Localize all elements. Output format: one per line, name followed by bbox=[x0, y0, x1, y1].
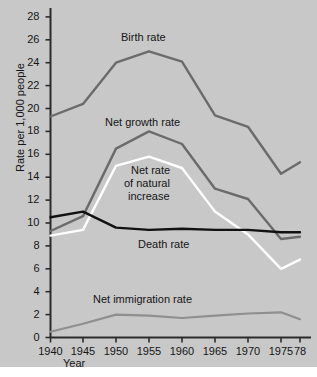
figure-bottom-margin bbox=[0, 367, 317, 377]
y-axis-tick-label: 14 bbox=[18, 170, 40, 182]
series-label-death-rate: Death rate bbox=[138, 238, 189, 251]
y-axis-tick-label: 18 bbox=[18, 124, 40, 136]
y-axis-tick-label: 26 bbox=[18, 33, 40, 45]
y-axis-tick-label: 4 bbox=[18, 285, 40, 297]
y-axis-tick-label: 0 bbox=[18, 331, 40, 343]
y-axis-tick-label: 28 bbox=[18, 10, 40, 22]
x-axis-tick-label: 1970 bbox=[233, 345, 263, 357]
x-axis-tick-label: 78 bbox=[292, 345, 308, 357]
series-label-birth-rate: Birth rate bbox=[121, 31, 166, 44]
y-axis-tick-label: 12 bbox=[18, 193, 40, 205]
y-axis-tick-label: 20 bbox=[18, 102, 40, 114]
x-axis-tick-label: 1955 bbox=[134, 345, 164, 357]
y-axis-tick-label: 10 bbox=[18, 216, 40, 228]
series-line-net-immigration-rate bbox=[51, 312, 301, 332]
y-axis-tick-label: 24 bbox=[18, 56, 40, 68]
series-label-net-immigration-rate: Net immigration rate bbox=[93, 293, 192, 306]
x-axis-tick-label: 1940 bbox=[36, 345, 66, 357]
y-axis-tick-label: 16 bbox=[18, 147, 40, 159]
series-label-natural-increase-line3: increase bbox=[128, 190, 170, 203]
data-series-group bbox=[51, 51, 301, 332]
y-axis-tick-label: 6 bbox=[18, 262, 40, 274]
y-axis-tick-label: 22 bbox=[18, 79, 40, 91]
line-chart-figure: Rate per 1,000 people Year 0246810121416… bbox=[0, 0, 317, 377]
x-axis-tick-label: 1945 bbox=[68, 345, 98, 357]
y-axis-tick-label: 8 bbox=[18, 239, 40, 251]
x-axis-tick-label: 1960 bbox=[167, 345, 197, 357]
x-axis-tick-label: 1950 bbox=[101, 345, 131, 357]
series-label-net-growth-rate: Net growth rate bbox=[105, 116, 180, 129]
series-label-natural-increase-line1: Net rate bbox=[131, 164, 170, 177]
y-axis-tick-label: 2 bbox=[18, 308, 40, 320]
series-label-natural-increase-line2: of natural bbox=[124, 177, 170, 190]
x-axis-tick-label: 1965 bbox=[200, 345, 230, 357]
series-line-birth-rate bbox=[51, 51, 301, 174]
